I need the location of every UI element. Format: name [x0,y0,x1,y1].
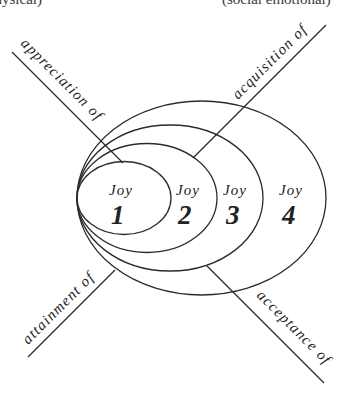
joy-2-label: Joy 2 [176,182,200,230]
axis-line-upper-left [12,52,123,163]
axis-label-lower-right: acceptance of [254,287,335,368]
axis-label-lower-left: attainment of [19,268,98,347]
joy-4-label: Joy 4 [279,182,303,230]
axis-line-upper-right [193,25,326,158]
joy-2-word: Joy [176,182,200,198]
ellipse-joy-4 [77,101,326,295]
joy-3-word: Joy [223,182,247,198]
joy-1-label: Joy 1 [109,182,133,230]
joy-3-number: 3 [225,200,240,230]
axis-label-upper-right: acquisition of [229,20,311,102]
ellipse-joy-2 [77,144,217,253]
joy-4-word: Joy [279,182,303,198]
axis-line-lower-right [207,266,324,383]
joy-4-number: 4 [281,200,296,230]
axis-label-upper-left: appreciation of [18,35,107,124]
joy-diagram: appreciation of acquisition of attainmen… [0,0,347,397]
joy-3-label: Joy 3 [223,182,247,230]
joy-1-word: Joy [109,182,133,198]
joy-1-number: 1 [111,200,125,230]
joy-2-number: 2 [177,200,192,230]
